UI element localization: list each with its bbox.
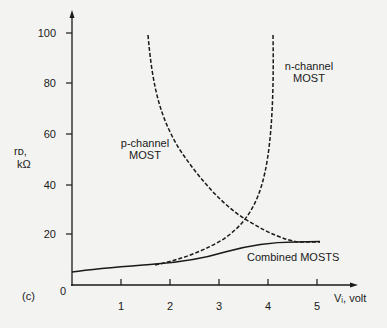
origin-label: 0: [60, 285, 66, 297]
x-tick-label: 2: [163, 300, 177, 312]
y-tick-label: 40: [26, 179, 56, 191]
n-channel-annotation: n-channel MOST: [279, 60, 339, 84]
x-axis-arrow-icon: [350, 283, 358, 288]
p-channel-annotation-line2: MOST: [115, 149, 175, 161]
x-tick-label: 1: [114, 300, 128, 312]
combined-annotation: Combined MOSTS: [247, 251, 339, 263]
y-tick-label: 60: [26, 128, 56, 140]
panel-label: (c): [22, 290, 35, 302]
x-tick-label: 3: [212, 300, 226, 312]
y-axis-label-line1: rᴅ,: [14, 145, 27, 157]
y-axis-label-line2: kΩ: [17, 158, 31, 170]
x-tick-label: 5: [310, 300, 324, 312]
y-ticks: [66, 33, 72, 234]
y-axis-arrow-icon: [70, 10, 75, 18]
x-ticks: [121, 279, 317, 285]
chart-canvas: [0, 0, 387, 328]
y-tick-label: 80: [26, 77, 56, 89]
n-channel-annotation-line1: n-channel: [279, 60, 339, 72]
x-axis-label: Vᵢ, volt: [334, 292, 366, 304]
p-channel-annotation-line1: p-channel: [115, 137, 175, 149]
x-tick-label: 4: [261, 300, 275, 312]
p-channel-annotation: p-channel MOST: [115, 137, 175, 161]
y-tick-label: 100: [26, 27, 56, 39]
n-channel-annotation-line2: MOST: [279, 72, 339, 84]
y-tick-label: 20: [26, 228, 56, 240]
